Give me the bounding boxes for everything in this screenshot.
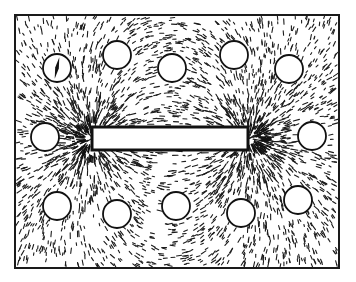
compass-circle: [43, 192, 71, 220]
compass-circle: [298, 122, 326, 150]
compass-circle: [158, 54, 186, 82]
compass-circle: [284, 186, 312, 214]
compass-circle: [227, 199, 255, 227]
compass-circle: [103, 41, 131, 69]
compass-circle: [103, 200, 131, 228]
compass-circle: [31, 123, 59, 151]
bar-magnet: [92, 127, 248, 150]
iron-filings-illustration: [0, 0, 356, 282]
compass-circle: [162, 192, 190, 220]
magnet-field-diagram: [0, 0, 356, 282]
compass-circle: [220, 41, 248, 69]
compass-circle: [275, 55, 303, 83]
